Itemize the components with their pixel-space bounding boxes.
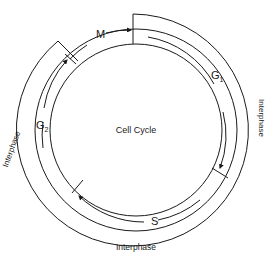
phase-label-s: S	[151, 215, 158, 227]
center-label: Cell Cycle	[116, 125, 157, 135]
boundary-s-g2	[72, 180, 83, 193]
s-arrow	[79, 196, 144, 222]
m-arrow	[106, 30, 131, 33]
phase-label-m: M	[96, 28, 105, 40]
g1-arrow	[220, 112, 226, 168]
boundary-g1-s	[212, 168, 228, 178]
cell-cycle-diagram: M G1 S G2 Cell Cycle Interphase Interpha…	[0, 0, 273, 258]
phase-label-g2: G2	[36, 119, 49, 133]
phase-label-g1: G1	[211, 69, 224, 83]
interphase-label-left: Interphase	[1, 129, 23, 168]
interphase-label-bottom: Interphase	[116, 242, 156, 252]
interphase-band-end	[58, 41, 78, 61]
interphase-label-right: Interphase	[257, 99, 266, 137]
s-track-right	[158, 200, 200, 220]
